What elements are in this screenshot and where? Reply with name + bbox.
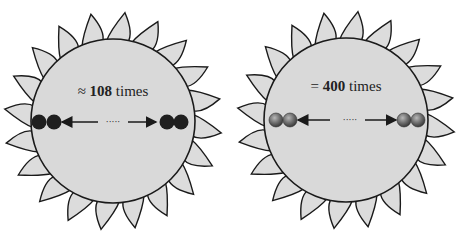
sphere	[269, 113, 283, 127]
sphere	[174, 115, 189, 130]
sun-ray	[425, 113, 455, 137]
sun-ray	[106, 13, 130, 43]
sphere	[160, 115, 175, 130]
diagram-canvas: ≈ 108 times ····· = 400 times ·····	[0, 0, 457, 238]
sphere	[32, 115, 47, 130]
sun-ray	[339, 12, 363, 42]
sphere	[411, 113, 425, 127]
sphere	[283, 113, 297, 127]
sun-ray	[192, 114, 222, 138]
ellipsis: ·····	[106, 117, 120, 127]
sphere	[397, 113, 411, 127]
ratio-label: = 400 times	[311, 78, 382, 94]
sphere	[47, 115, 62, 130]
left-sun: ≈ 108 times ·····	[5, 13, 222, 230]
right-sun: = 400 times ·····	[238, 12, 455, 229]
sun-ray	[5, 104, 35, 128]
ellipsis: ·····	[343, 115, 357, 125]
sun-ray	[96, 200, 120, 230]
ratio-label: ≈ 108 times	[78, 83, 149, 99]
sun-ray	[238, 103, 268, 127]
sun-ray	[329, 199, 353, 229]
